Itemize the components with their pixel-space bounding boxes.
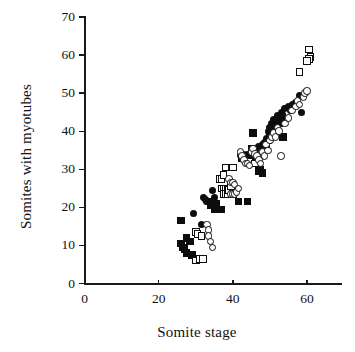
data-point-open-square bbox=[303, 57, 311, 65]
data-point-open-circle bbox=[209, 244, 217, 252]
data-point-filled-square bbox=[244, 198, 252, 206]
data-point-filled-square bbox=[235, 198, 243, 206]
data-point-open-square bbox=[305, 46, 313, 54]
data-point-open-circle bbox=[235, 185, 243, 193]
data-point-open-circle bbox=[285, 114, 293, 122]
data-point-filled-square bbox=[186, 238, 194, 246]
data-point-filled-circle bbox=[298, 109, 305, 116]
data-point-filled-square bbox=[218, 206, 226, 214]
data-point-filled-square bbox=[177, 217, 185, 225]
data-point-open-square bbox=[199, 255, 207, 263]
scatter-plot-figure: 0102030405060700204060 Somites with myot… bbox=[0, 0, 355, 352]
x-axis-label: Somite stage bbox=[85, 324, 309, 341]
data-point-open-circle bbox=[246, 162, 254, 170]
data-point-open-square bbox=[229, 164, 237, 172]
data-point-filled-square bbox=[249, 129, 257, 137]
data-point-open-circle bbox=[296, 101, 304, 109]
data-point-filled-square bbox=[259, 169, 267, 177]
data-point-open-square bbox=[222, 164, 230, 172]
data-point-open-circle bbox=[303, 87, 311, 95]
data-point-open-circle bbox=[264, 147, 272, 155]
data-point-open-square bbox=[296, 68, 304, 76]
data-point-open-circle bbox=[275, 127, 283, 135]
data-point-layer bbox=[0, 0, 355, 352]
data-point-filled-circle bbox=[209, 187, 216, 194]
y-axis-label: Somites with myotubes bbox=[18, 47, 35, 267]
data-point-filled-circle bbox=[190, 210, 197, 217]
data-point-open-square bbox=[198, 232, 206, 240]
data-point-open-circle bbox=[277, 152, 285, 160]
